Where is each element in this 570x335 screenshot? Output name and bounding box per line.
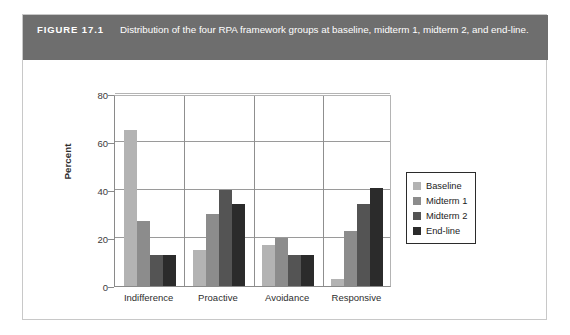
figure-number-label: FIGURE 17.1 <box>37 23 104 35</box>
legend-swatch-icon <box>413 212 421 220</box>
gridline-horizontal <box>115 189 390 190</box>
y-axis-tick-mark <box>108 95 114 96</box>
y-axis-tick-label: 80 <box>80 90 108 101</box>
legend-item: Baseline <box>413 178 467 193</box>
figure-caption-bar: FIGURE 17.1 Distribution of the four RPA… <box>23 15 548 60</box>
legend-label: End-line <box>426 226 460 236</box>
y-axis-tick-mark <box>108 287 114 288</box>
bar <box>163 255 176 286</box>
x-axis-tick-label: Avoidance <box>265 292 309 303</box>
bar <box>124 130 137 286</box>
bar <box>206 214 219 286</box>
bar <box>150 255 163 286</box>
gridline-horizontal <box>115 93 390 94</box>
bar <box>219 190 232 286</box>
gridline-vertical <box>254 96 255 286</box>
x-axis-tick-label: Responsive <box>332 292 382 303</box>
legend-item: Midterm 1 <box>413 193 467 208</box>
y-axis-title: Percent <box>62 102 73 222</box>
y-axis-tick-label: 60 <box>80 138 108 149</box>
y-axis-tick-label: 40 <box>80 186 108 197</box>
bar <box>301 255 314 286</box>
legend-label: Baseline <box>426 181 462 191</box>
y-axis-tick-mark <box>108 239 114 240</box>
gridline-vertical <box>184 96 185 286</box>
bar <box>344 231 357 286</box>
y-axis-tick-mark <box>108 143 114 144</box>
bar <box>275 238 288 286</box>
bar <box>137 221 150 286</box>
bar <box>262 245 275 286</box>
figure-caption-text: Distribution of the four RPA framework g… <box>120 23 536 38</box>
legend-item: Midterm 2 <box>413 208 467 223</box>
bar <box>357 204 370 286</box>
gridline-horizontal <box>115 141 390 142</box>
bar <box>370 188 383 286</box>
bar <box>193 250 206 286</box>
legend-swatch-icon <box>413 227 421 235</box>
y-axis-tick-label: 20 <box>80 234 108 245</box>
bar <box>288 255 301 286</box>
figure-container: FIGURE 17.1 Distribution of the four RPA… <box>22 14 547 320</box>
y-axis-tick-labels: 020406080 <box>78 95 108 287</box>
legend-label: Midterm 2 <box>426 211 467 221</box>
legend-item: End-line <box>413 223 467 238</box>
gridline-vertical <box>323 96 324 286</box>
chart-legend: BaselineMidterm 1Midterm 2End-line <box>406 172 476 244</box>
bar <box>331 279 344 286</box>
chart-area: Percent 020406080 IndifferenceProactiveA… <box>23 60 548 320</box>
plot-area <box>114 95 391 287</box>
y-axis-tick-label: 0 <box>80 282 108 293</box>
x-axis-tick-label: Proactive <box>198 292 238 303</box>
legend-label: Midterm 1 <box>426 196 467 206</box>
legend-swatch-icon <box>413 182 421 190</box>
x-axis-tick-labels: IndifferenceProactiveAvoidanceResponsive <box>114 292 391 310</box>
y-axis-tick-mark <box>108 191 114 192</box>
bar <box>232 204 245 286</box>
legend-swatch-icon <box>413 197 421 205</box>
x-axis-tick-label: Indifference <box>124 292 173 303</box>
